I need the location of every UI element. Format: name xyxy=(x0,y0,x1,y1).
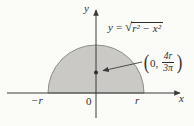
equation-lhs: y xyxy=(108,22,113,33)
y-axis-label: y xyxy=(84,3,89,14)
equation-label: y = √ r² − x² xyxy=(108,22,163,34)
origin-label: 0 xyxy=(86,96,92,107)
tick-label-r: r xyxy=(135,95,139,106)
fraction-numerator: 4r xyxy=(162,51,174,63)
close-paren: ) xyxy=(176,49,182,76)
open-paren: ( xyxy=(144,49,150,76)
equation-equals: = xyxy=(116,22,122,33)
tick-label-neg-r: −r xyxy=(31,95,43,106)
point-x-coordinate: 0, xyxy=(150,58,158,69)
equation-radicand: r² − x² xyxy=(131,22,163,34)
semicircle-centroid-diagram: y x −r 0 r y = √ r² − x² ( 0, 4r 3π ) xyxy=(0,0,194,126)
fraction-denominator: 3π xyxy=(161,63,175,74)
point-y-fraction: 4r 3π xyxy=(161,51,175,74)
centroid-point-label: ( 0, 4r 3π ) xyxy=(143,49,183,76)
x-axis-label: x xyxy=(179,93,184,104)
centroid-dot xyxy=(94,71,98,75)
